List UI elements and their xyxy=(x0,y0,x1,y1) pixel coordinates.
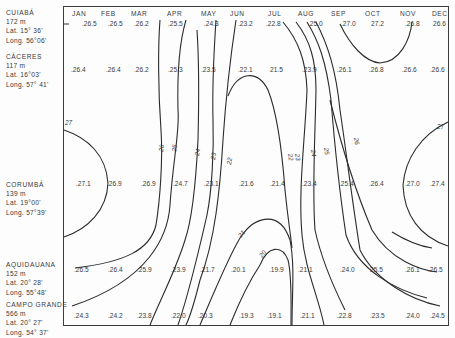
data-value: .22.8 xyxy=(266,20,281,27)
data-value: .25.4 xyxy=(339,180,354,187)
isotherm-label: 23 xyxy=(294,152,302,162)
data-row-caceres: .26.4 .26.4 .26.2 .25.3 .23.5 .22.1 21.5… xyxy=(71,66,445,73)
data-value: .24.7 xyxy=(173,180,188,187)
data-value: .25.3 xyxy=(168,66,183,73)
data-value: .26.4 xyxy=(108,266,123,273)
data-value: 21.5 xyxy=(270,66,283,73)
data-value: .25.0 xyxy=(308,20,323,27)
data-value: .26.8 xyxy=(405,20,420,27)
data-value: .23.8 xyxy=(137,312,152,319)
data-value: .26.6 xyxy=(402,66,417,73)
month-label: DEC xyxy=(432,10,448,17)
isotherm-25 xyxy=(72,20,186,306)
data-value: .26.4 xyxy=(369,180,384,187)
data-value: .21.6 xyxy=(239,180,254,187)
isotherm-26 xyxy=(75,20,162,268)
data-value: .26.4 xyxy=(106,66,121,73)
data-value: .24.0 xyxy=(340,266,355,273)
data-row-corumba: .27.1 .26.9 .26.9 .24.7 .23.1 .21.6 .21.… xyxy=(76,180,445,187)
data-row-campo-grande: .24.3 .24.2 .23.8 .22.0 .20.3 .19.3 .19.… xyxy=(74,312,445,319)
month-label: OCT xyxy=(365,10,381,17)
data-value: .26.2 xyxy=(134,66,149,73)
isotherm-25-right xyxy=(316,22,440,306)
data-value: .24.5 xyxy=(430,312,445,319)
isotherm-label: 23 xyxy=(209,152,217,162)
data-value: .22.8 xyxy=(337,312,352,319)
data-value: .21.7 xyxy=(200,266,215,273)
isotherm-22-loop xyxy=(228,76,292,248)
month-label: AUG xyxy=(298,10,314,17)
data-value: .25.9 xyxy=(137,266,152,273)
data-value: 26.6 xyxy=(433,20,446,27)
data-value: .21.1 xyxy=(300,312,315,319)
data-value: .21.4 xyxy=(270,180,285,187)
data-value: .22.1 xyxy=(238,66,253,73)
isotherm-label: 24 xyxy=(193,148,201,158)
month-label: JUL xyxy=(268,10,282,17)
data-value: .26.2 xyxy=(134,20,149,27)
isotherm-chart-page: CUIABÁ 172 m Lat. 15° 36' Long. 56°06' C… xyxy=(0,0,455,338)
data-value: .20.1 xyxy=(231,266,246,273)
data-value: .26.8 xyxy=(369,66,384,73)
isotherm-label: 25 xyxy=(170,144,178,154)
month-label: NOV xyxy=(400,10,416,17)
month-label: APR xyxy=(167,10,182,17)
data-value: .27.0 xyxy=(341,20,356,27)
isotherm-label: 25 xyxy=(323,146,331,156)
data-row-cuiaba: .26.5 .26.5 .26.2 .25.5 .24.3 .23.2 .22.… xyxy=(82,20,446,27)
month-label: JUN xyxy=(230,10,245,17)
data-value: .26.1 xyxy=(337,66,352,73)
isotherm-label: 27 xyxy=(436,123,445,130)
data-value: .26.4 xyxy=(71,66,86,73)
data-value: .19.3 xyxy=(239,312,254,319)
isotherm-label: 26 xyxy=(157,144,165,154)
data-value: .23.4 xyxy=(302,180,317,187)
data-value: .23.2 xyxy=(238,20,253,27)
data-value: .19.1 xyxy=(267,312,282,319)
isotherm-label: 26 xyxy=(353,136,361,146)
isotherm-labels: 27 26 25 24 23 22 22 23 24 25 26 27 21 2… xyxy=(64,119,445,259)
data-value: .26.6 xyxy=(430,66,445,73)
data-value: .26.9 xyxy=(107,180,122,187)
data-value: .24.3 xyxy=(204,20,219,27)
data-value: .27.0 xyxy=(405,180,420,187)
data-value: .24.0 xyxy=(405,312,420,319)
isotherm-label: 21 xyxy=(236,228,247,239)
data-value: .24.2 xyxy=(108,312,123,319)
month-label: FEB xyxy=(101,10,116,17)
data-value: .27.1 xyxy=(76,180,91,187)
month-axis: JAN FEB MAR APR MAY JUN JUL AUG SEP OCT … xyxy=(72,10,448,17)
isotherm-label: 27 xyxy=(64,119,73,126)
data-value: 27.2 xyxy=(371,20,384,27)
data-value: .26.5 xyxy=(108,20,123,27)
isotherm-label: 22 xyxy=(225,157,233,167)
data-value: .24.3 xyxy=(74,312,89,319)
month-label: SEP xyxy=(331,10,346,17)
data-value: .22.0 xyxy=(171,312,186,319)
isotherm-27-top xyxy=(340,22,412,63)
isotherm-lines xyxy=(64,20,448,325)
month-label: JAN xyxy=(72,10,86,17)
isotherm-label: 20 xyxy=(257,248,268,259)
data-value: .19.9 xyxy=(269,266,284,273)
isotherm-label: 24 xyxy=(310,148,318,158)
month-label: MAY xyxy=(201,10,217,17)
data-value: .26.5 xyxy=(82,20,97,27)
data-value: .23.5 xyxy=(370,312,385,319)
data-value: .21.1 xyxy=(298,266,313,273)
isotherm-plot: JAN FEB MAR APR MAY JUN JUL AUG SEP OCT … xyxy=(0,0,455,338)
data-value: .26.9 xyxy=(141,180,156,187)
data-value: .27.4 xyxy=(430,180,445,187)
month-label: MAR xyxy=(131,10,147,17)
data-value: .25.5 xyxy=(168,20,183,27)
